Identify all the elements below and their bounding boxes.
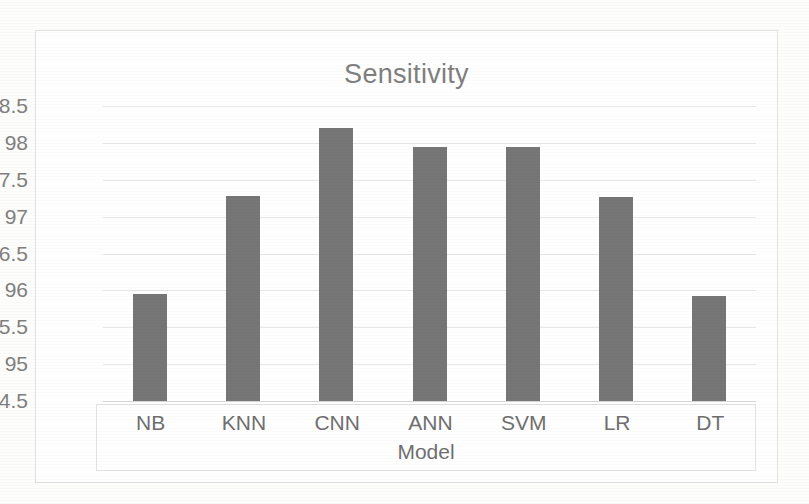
x-axis-label-svm: SVM [478,411,570,435]
y-axis-tick-label: 98 [0,131,28,155]
y-axis-tick-label: 97.5 [0,168,28,192]
bar-series [103,106,756,401]
chart-title: Sensitivity [36,59,777,90]
plot-area [103,106,756,401]
bar-dt [692,296,726,401]
bar-ann [413,147,447,401]
x-axis-label-dt: DT [664,411,756,435]
bar-cnn [319,128,353,401]
figure-canvas: Sensitivity 98.59897.59796.59695.59594.5… [0,0,809,504]
bar-knn [226,196,260,401]
x-axis-label-knn: KNN [198,411,290,435]
x-axis-label-lr: LR [571,411,663,435]
y-axis-tick-label: 96.5 [0,242,28,266]
y-axis-tick-labels: 98.59897.59796.59695.59594.5 [0,106,28,401]
chart-frame: Sensitivity 98.59897.59796.59695.59594.5… [35,30,778,483]
y-axis-tick-label: 95 [0,352,28,376]
x-axis-label-nb: NB [105,411,197,435]
x-axis-title: Model [97,440,755,464]
y-axis-tick-label: 98.5 [0,94,28,118]
y-axis-tick-label: 97 [0,205,28,229]
bar-lr [599,197,633,401]
y-axis-tick-label: 94.5 [0,389,28,413]
x-axis-label-ann: ANN [385,411,477,435]
x-axis-box: NBKNNCNNANNSVMLRDT Model [96,404,756,471]
y-axis-tick-label: 96 [0,278,28,302]
x-axis-label-cnn: CNN [291,411,383,435]
bar-nb [133,294,167,401]
bar-svm [506,147,540,401]
x-axis-category-labels: NBKNNCNNANNSVMLRDT [104,411,757,443]
y-axis-tick-label: 95.5 [0,315,28,339]
gridline [103,401,756,402]
